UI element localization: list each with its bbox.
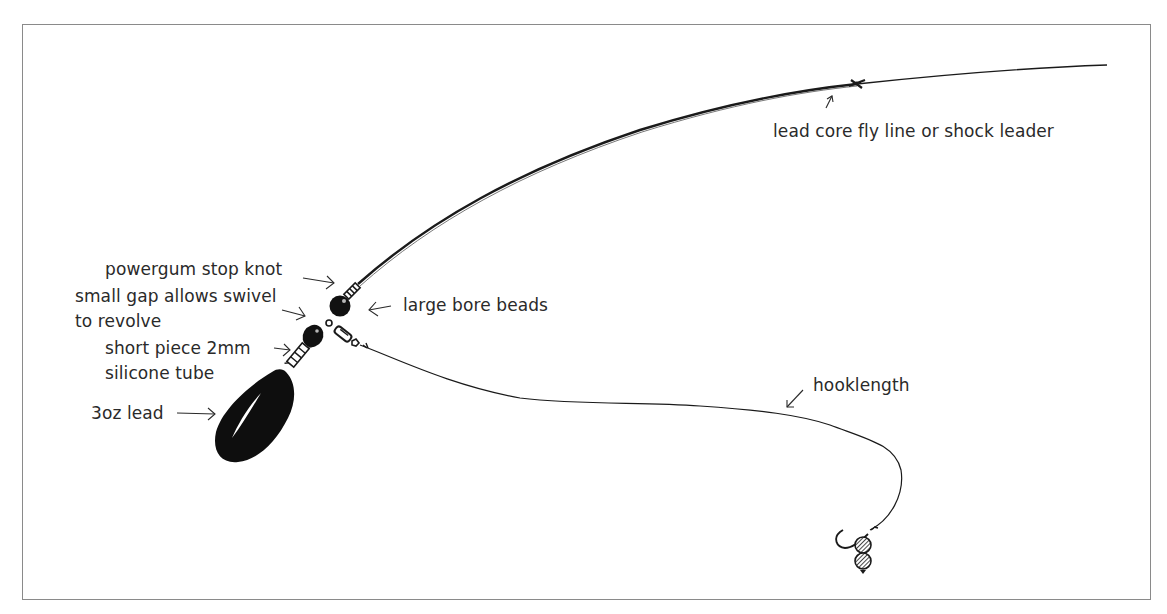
arrow-tube (274, 344, 290, 356)
rig-drawing (0, 0, 1167, 614)
arrow-main-line (826, 96, 833, 108)
label-beads: large bore beads (403, 294, 548, 316)
powergum-stop-knot (344, 283, 360, 299)
lead-weight (215, 369, 294, 462)
large-bore-bead-upper (330, 296, 351, 317)
label-tube-line2: silicone tube (105, 362, 214, 384)
swivel (326, 320, 359, 346)
label-tube-line1: short piece 2mm (105, 337, 251, 359)
label-stop-knot: powergum stop knot (105, 258, 282, 280)
label-lead: 3oz lead (91, 402, 164, 424)
arrow-gap (282, 307, 305, 320)
label-gap-line2: to revolve (75, 310, 161, 332)
arrow-stop-knot (303, 276, 334, 289)
arrow-hooklength (787, 390, 803, 407)
arrow-lead (177, 408, 215, 420)
arrow-beads (369, 302, 391, 316)
label-hooklength: hooklength (813, 374, 910, 396)
hooklength-line (360, 343, 902, 530)
label-gap-line1: small gap allows swivel (75, 285, 277, 307)
hookbait (855, 537, 871, 574)
main-line (358, 65, 1107, 286)
label-main-line: lead core fly line or shock leader (773, 120, 1054, 142)
